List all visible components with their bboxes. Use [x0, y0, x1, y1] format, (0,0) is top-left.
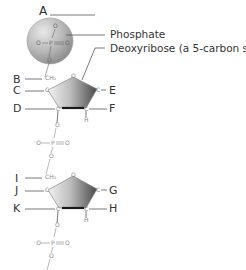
- label-a: A: [39, 5, 47, 17]
- atom-o-dbl-2: O: [65, 240, 70, 246]
- label-i: I: [15, 173, 18, 184]
- atom-o-top: O: [53, 23, 58, 29]
- atom-o-minus-1: ⁻O: [33, 140, 41, 146]
- atom-h-1: H: [84, 117, 89, 123]
- label-d: D: [13, 103, 21, 114]
- atom-c-left-1: C: [45, 87, 49, 93]
- atom-c-bl-1: C: [56, 106, 60, 112]
- atom-c-right-1: C: [96, 87, 100, 93]
- atom-o-chain-2a: O: [55, 222, 60, 228]
- deoxyribose-pointer: [82, 48, 105, 80]
- deoxyribose-pentagon-1: [48, 77, 97, 108]
- label-j: J: [15, 185, 18, 196]
- atom-ch2-1: CH₂: [45, 75, 56, 81]
- atom-o-right: O: [65, 40, 70, 46]
- backbone-phosphate-2: [41, 228, 64, 270]
- atom-o-chain-2b: O: [49, 253, 54, 259]
- atom-o-bottom: O: [47, 57, 52, 63]
- atom-c-right-2: C: [96, 187, 100, 193]
- label-c: C: [13, 85, 21, 96]
- atom-ring-o-2: O: [71, 172, 76, 178]
- atom-ring-o-1: O: [71, 73, 76, 79]
- atom-ch2-2: CH₂: [45, 174, 56, 180]
- backbone-phosphate-1: [41, 128, 64, 174]
- phosphate-annotation: Phosphate: [110, 29, 165, 40]
- atom-c-left-2: C: [45, 187, 49, 193]
- atom-c-br-2: C: [84, 206, 88, 212]
- atom-o-left: O: [36, 40, 41, 46]
- atom-p-2: P: [51, 240, 55, 246]
- deoxyribose-annotation: Deoxyribose (a 5-carbon sugar): [110, 43, 246, 54]
- label-g: G: [109, 185, 118, 196]
- label-h: H: [109, 203, 117, 214]
- atom-o-chain-1a: O: [55, 122, 60, 128]
- atom-p: P: [49, 40, 53, 46]
- atom-o-chain-1b: O: [49, 153, 54, 159]
- atom-c-br-1: C: [84, 106, 88, 112]
- atom-o-minus-2: ⁻O: [33, 240, 41, 246]
- atom-h-2: H: [84, 217, 89, 223]
- deoxyribose-pentagon-2: [48, 176, 97, 208]
- atom-o-dbl-1: O: [65, 140, 70, 146]
- label-k: K: [13, 203, 20, 214]
- atom-p-1: P: [51, 140, 55, 146]
- atom-c-bl-2: C: [56, 206, 60, 212]
- label-f: F: [109, 103, 115, 114]
- label-e: E: [109, 85, 116, 96]
